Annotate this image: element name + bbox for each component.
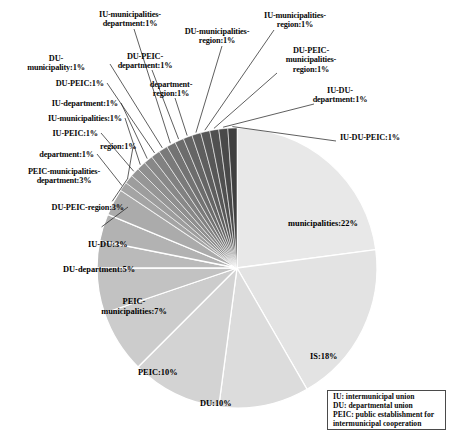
slice-label-peic: PEIC:10% (138, 368, 208, 378)
slice-label-du-peic-municipalities-region: DU-PEIC- municipalities- region:1% (262, 46, 360, 74)
slice-label-iu-du: IU-DU:3% (88, 240, 158, 250)
slice-label-du-municipality: DU- municipality:1% (6, 54, 106, 73)
pie-chart-figure: municipalities:22% IS:18% DU:10% PEIC:10… (0, 0, 454, 447)
slice-label-iu-municipalities-department: IU-municipalities- department:1% (74, 10, 186, 29)
leader-line (175, 98, 187, 136)
slice-label-iu-municipalities: IU-municipalities:1% (6, 114, 122, 123)
slice-label-iu-department: IU-department:1% (6, 99, 118, 108)
legend-item-peic-line2: intermunicipal cooperation (333, 420, 441, 429)
slice-label-du-peic-department: DU-PEIC- department:1% (96, 52, 194, 71)
leader-line (214, 73, 277, 128)
slice-label-iu-du-department: IU-DU- department:1% (292, 86, 388, 105)
legend-box: IU: intermunicipal union DU: departmenta… (327, 390, 446, 430)
slice-label-is: IS:18% (310, 352, 380, 362)
slice-label-department: department:1% (6, 150, 94, 159)
leader-line (128, 147, 133, 178)
slice-label-department-region: department- region:1% (130, 80, 212, 99)
slice-label-peic-municipalities-department: PEIC-municipalities- department:3% (2, 167, 126, 186)
slice-label-iu-municipalities-region: IU-municipalities- region:1% (240, 11, 350, 30)
slice-label-iu-peic: IU-PEIC:1% (6, 129, 98, 138)
slice-label-peic-municipalities: PEIC- municipalities:7% (86, 297, 182, 316)
slice-label-du-peic-region: DU-PEIC-region:3% (6, 203, 124, 212)
slice-label-du-municipalities-region: DU-municipalities- region:1% (160, 27, 274, 46)
leader-line (223, 104, 314, 127)
slice-label-region: region:1% (100, 142, 170, 151)
pie-slice[interactable] (237, 128, 376, 268)
slice-label-du: DU:10% (200, 399, 270, 409)
slice-label-du-peic: DU-PEIC:1% (6, 79, 104, 88)
slice-label-iu-du-peic: IU-DU-PEIC:1% (340, 133, 452, 142)
slice-label-municipalities: municipalities:22% (288, 219, 408, 229)
slice-label-du-department: DU-department:5% (63, 265, 167, 275)
